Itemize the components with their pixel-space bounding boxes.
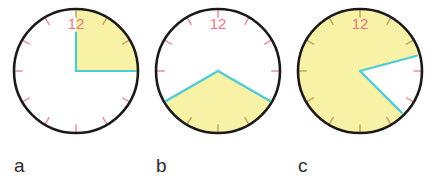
panel-label-b: b <box>156 155 167 176</box>
panel-label-a: a <box>14 155 25 176</box>
hour-number-12: 12 <box>352 15 369 32</box>
clock-b: 12b <box>156 9 280 176</box>
hour-number-12: 12 <box>68 15 85 32</box>
hour-number-12: 12 <box>210 15 227 32</box>
three-clocks-diagram: 12a12b12c <box>0 0 435 182</box>
panel-label-c: c <box>298 155 308 176</box>
clock-a: 12a <box>14 9 138 176</box>
clock-figure: 12a12b12c <box>0 0 435 182</box>
clock-c: 12c <box>298 9 422 176</box>
